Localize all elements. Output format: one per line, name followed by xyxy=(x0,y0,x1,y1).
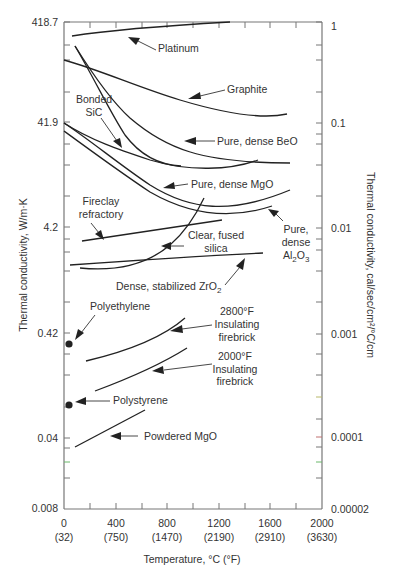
arrow-icon xyxy=(113,138,122,148)
x-tick-c: 1600 xyxy=(258,517,282,529)
label-polyethylene: Polyethylene xyxy=(90,300,150,312)
x-tick-c: 2000 xyxy=(310,517,334,529)
y-right-tick: 0.00002 xyxy=(331,503,369,515)
x-tick-f: (2910) xyxy=(255,531,285,543)
curve-zro2 xyxy=(70,253,263,265)
label-polystyrene: Polystyrene xyxy=(113,394,168,406)
label-firebrick-2000-line3: firebrick xyxy=(217,375,255,387)
x-tick-c: 400 xyxy=(107,517,125,529)
curve-firebrick-2800 xyxy=(86,318,185,361)
right-y-tick-labels: 1 0.1 0.01 0.001 0.0001 0.00002 xyxy=(331,20,369,515)
y-left-tick: 0.04 xyxy=(38,432,59,444)
label-al2o3-line2: dense xyxy=(282,236,311,248)
arrow-icon xyxy=(152,366,164,374)
x-tick-c: 800 xyxy=(158,517,176,529)
y-left-tick: 41.9 xyxy=(38,116,59,128)
label-mgo: Pure, dense MgO xyxy=(191,178,273,190)
label-silica-line2: silica xyxy=(204,242,227,254)
left-y-ticks xyxy=(64,22,70,478)
label-powdered-mgo: Powdered MgO xyxy=(144,430,217,442)
left-y-tick-labels: 418.7 41.9 4.2 0.42 0.04 0.008 xyxy=(32,16,58,514)
y-right-tick: 0.0001 xyxy=(331,431,363,443)
y-right-tick: 0.001 xyxy=(331,328,357,340)
label-platinum: Platinum xyxy=(158,42,199,54)
x-tick-f: (32) xyxy=(55,531,74,543)
right-y-ticks xyxy=(316,22,322,478)
label-fireclay-line2: refractory xyxy=(79,208,124,220)
x-tick-f: (3630) xyxy=(307,531,337,543)
label-al2o3-line1: Pure, xyxy=(283,223,308,235)
y-left-tick: 4.2 xyxy=(43,221,58,233)
curve-labels: Platinum Graphite Bonded SiC Pure, dense… xyxy=(76,42,311,442)
label-beo: Pure, dense BeO xyxy=(217,135,298,147)
label-fireclay-line1: Fireclay xyxy=(83,195,121,207)
label-firebrick-2800-line2: Insulating xyxy=(215,318,260,330)
arrow-icon xyxy=(75,397,86,405)
arrow-icon xyxy=(236,258,245,270)
y-left-tick: 418.7 xyxy=(32,16,58,28)
label-firebrick-2800-line3: firebrick xyxy=(219,331,257,343)
x-tick-labels: 0 (32) 400 (750) 800 (1470) 1200 (2190) … xyxy=(55,517,338,543)
y-right-tick: 1 xyxy=(331,20,337,32)
label-firebrick-2000-line2: Insulating xyxy=(213,363,258,375)
label-bonded-sic-line2: SiC xyxy=(86,106,103,118)
y-left-tick: 0.42 xyxy=(38,327,59,339)
curve-platinum xyxy=(72,22,230,36)
arrow-icon xyxy=(128,37,140,45)
arrow-icon xyxy=(188,92,201,99)
y-left-tick: 0.008 xyxy=(32,502,58,514)
y-right-axis-title: Thermal conductivity, cal/sec/cm²/°C/cm xyxy=(365,172,377,358)
thermal-conductivity-chart: 418.7 41.9 4.2 0.42 0.04 0.008 1 0.1 0.0… xyxy=(0,0,396,575)
label-zro2: Dense, stabilized ZrO2 xyxy=(116,280,222,295)
y-right-tick: 0.01 xyxy=(331,222,352,234)
label-al2o3-line3: Al2O3 xyxy=(283,249,310,264)
label-firebrick-2000-line1: 2000°F xyxy=(218,350,252,362)
label-bonded-sic-line1: Bonded xyxy=(76,93,112,105)
label-firebrick-2800-line1: 2800°F xyxy=(220,305,254,317)
x-tick-c: 0 xyxy=(61,517,67,529)
arrow-icon xyxy=(170,325,183,333)
y-right-tick: 0.1 xyxy=(331,117,346,129)
arrow-icon xyxy=(110,432,121,440)
label-graphite: Graphite xyxy=(227,83,267,95)
x-tick-c: 1200 xyxy=(207,517,231,529)
point-polyethylene xyxy=(65,340,72,347)
x-tick-f: (750) xyxy=(104,531,129,543)
arrow-icon xyxy=(184,137,196,145)
arrow-icon xyxy=(163,182,175,189)
point-polystyrene xyxy=(65,401,72,408)
y-left-axis-title: Thermal conductivity, W/m·K xyxy=(17,198,29,331)
x-tick-f: (1470) xyxy=(152,531,182,543)
curve-powdered-mgo xyxy=(75,410,145,447)
label-silica-line1: Clear, fused xyxy=(188,229,244,241)
x-axis-title: Temperature, °C (°F) xyxy=(143,553,240,565)
x-tick-f: (2190) xyxy=(204,531,234,543)
